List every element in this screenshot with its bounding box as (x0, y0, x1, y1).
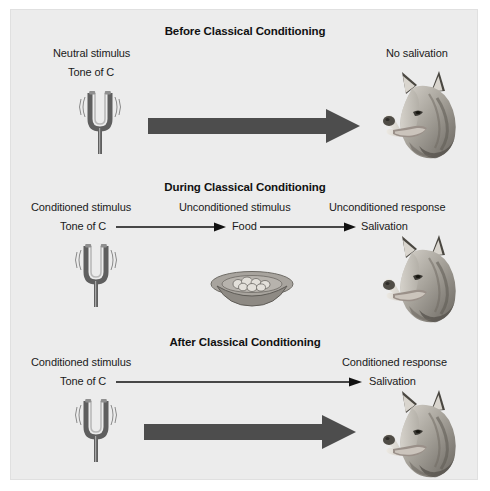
after-dog-head-icon (379, 387, 465, 483)
panel-after-conditioning: After Classical Conditioning Conditioned… (11, 325, 479, 481)
after-thick-arrow-icon (144, 415, 356, 449)
after-thin-arrow-icon (116, 376, 362, 388)
during-unconditioned-response-label: Unconditioned response (329, 201, 445, 213)
during-conditioned-stimulus-label: Conditioned stimulus (31, 201, 131, 213)
before-no-salivation-label: No salivation (386, 47, 448, 59)
before-tone-of-c-label: Tone of C (68, 66, 114, 78)
before-neutral-stimulus-label: Neutral stimulus (53, 47, 130, 59)
during-dog-head-icon (379, 232, 465, 328)
during-salivation-label: Salivation (361, 220, 408, 232)
tuning-fork-icon (70, 238, 122, 310)
panel-during-conditioning: During Classical Conditioning Conditione… (11, 170, 479, 325)
during-thin-arrow-left-icon (116, 221, 226, 233)
during-thin-arrow-right-icon (260, 221, 356, 233)
panel-before-conditioning: Before Classical Conditioning Neutral st… (11, 10, 479, 170)
classical-conditioning-figure: Before Classical Conditioning Neutral st… (10, 9, 478, 480)
after-conditioned-response-label: Conditioned response (342, 356, 447, 368)
during-unconditioned-stimulus-label: Unconditioned stimulus (179, 201, 291, 213)
during-food-label: Food (232, 220, 257, 232)
after-tone-of-c-label: Tone of C (60, 375, 106, 387)
panel-before-heading: Before Classical Conditioning (11, 25, 479, 37)
tuning-fork-icon (74, 85, 126, 157)
after-conditioned-stimulus-label: Conditioned stimulus (31, 356, 131, 368)
after-salivation-label: Salivation (369, 375, 416, 387)
food-bowl-icon (210, 270, 294, 310)
before-thick-arrow-icon (148, 109, 360, 143)
before-dog-head-icon (379, 68, 465, 164)
panel-after-heading: After Classical Conditioning (11, 336, 479, 348)
panel-during-heading: During Classical Conditioning (11, 181, 479, 193)
tuning-fork-icon (70, 393, 122, 465)
during-tone-of-c-label: Tone of C (60, 220, 106, 232)
